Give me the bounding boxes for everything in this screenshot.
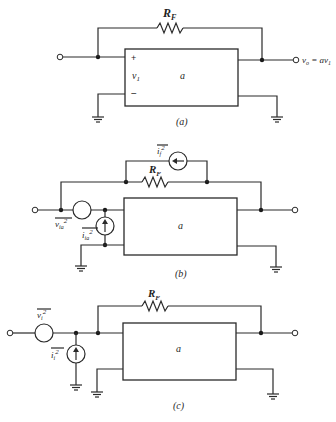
equiv-noise-voltage-label: vi2 [37,308,47,321]
minus-sign: − [131,88,137,99]
feedback-resistor [142,177,168,187]
feedback-wire-left [98,306,142,333]
caption-a: (a) [176,116,188,128]
ground-icon [267,394,279,399]
input-terminal [7,330,13,336]
v1-label: v1 [132,70,140,83]
output-terminal [293,57,299,63]
gain-label: a [180,70,185,81]
output-junction [259,331,263,335]
output-junction [259,208,263,212]
ground-icon [70,385,82,390]
left-ground-wire [98,94,125,117]
noise-voltage-label: via2 [55,217,68,230]
ground-icon [92,117,104,122]
gain-label: a [176,343,181,354]
gain-label: a [178,220,183,231]
ground-icon [271,117,283,122]
feedback-resistor [142,301,168,311]
output-terminal [292,330,298,336]
panel-a: RF + v1 − a vo = av1 (a) [57,6,331,128]
caption-c: (c) [173,400,185,412]
rf-label: RF [148,163,161,178]
output-terminal [292,207,298,213]
feedback-amplifier-noise-diagram: RF + v1 − a vo = av1 (a) via2 [0,0,336,422]
plus-sign: + [131,53,136,63]
feedback-noise-current-label: if2 [157,144,165,157]
right-ground-wire [236,369,273,394]
left-ground-wire [81,245,124,266]
input-terminal [57,54,63,60]
equiv-noise-voltage-source-icon [35,324,53,342]
left-ground-wire [97,369,123,392]
panel-c: vi2 ii2 RF a (c) [7,287,298,412]
ground-icon [91,392,103,397]
feedback-wire-left [98,28,157,57]
feedback-wire-left [61,182,142,210]
output-junction [260,58,264,62]
right-ground-wire [237,246,276,267]
noise-current-label: iia2 [82,228,93,241]
feedback-wire-right [168,182,261,210]
ground-icon [270,267,282,272]
rf-label: RF [147,287,160,302]
caption-b: (b) [175,268,187,280]
equiv-noise-current-label: ii2 [51,348,59,361]
feedback-wire-right [183,28,262,60]
feedback-wire-right [168,306,261,333]
right-ground-wire [238,96,277,117]
wire [126,161,169,182]
ground-icon [75,266,87,271]
wire [187,161,207,182]
noise-voltage-source-icon [73,201,91,219]
output-equation: vo = av1 [302,55,331,66]
panel-b: via2 iia2 RF if2 a ( [32,144,298,280]
input-terminal [32,207,38,213]
rf-label: RF [162,6,177,22]
feedback-resistor [157,23,183,33]
